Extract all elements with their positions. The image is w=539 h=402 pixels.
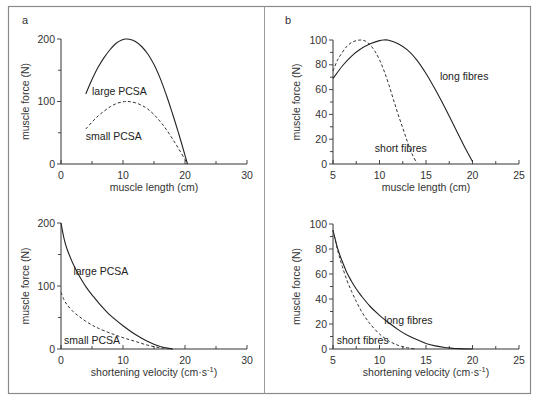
x-tick-label: 5 <box>330 354 336 366</box>
y-tick-label: 80 <box>315 58 327 70</box>
x-tick-label: 20 <box>179 354 191 366</box>
curve-short-fibres <box>333 230 417 349</box>
chart-panel-c: 01020300100200shortening velocity (cm·s-… <box>19 217 253 379</box>
figure: a b 01020300100200muscle length (cm)musc… <box>0 0 539 402</box>
y-tick-label: 0 <box>321 158 327 170</box>
label-small-pcsa: small PCSA <box>64 334 120 346</box>
y-tick-label: 100 <box>37 95 55 107</box>
y-tick-label: 100 <box>309 218 327 230</box>
chart-panel-d: 510152025020406080100shortening velocity… <box>290 218 525 379</box>
x-tick-label: 5 <box>330 169 336 181</box>
y-axis-label: muscle force (N) <box>290 63 302 140</box>
y-tick-label: 80 <box>315 243 327 255</box>
chart-panel-a: 01020300100200muscle length (cm)muscle f… <box>19 33 253 194</box>
y-axis-label: muscle force (N) <box>19 63 31 140</box>
label-short-fibres: short fibres <box>375 142 427 154</box>
y-tick-label: 200 <box>37 33 55 45</box>
x-tick-label: 25 <box>513 354 525 366</box>
x-tick-label: 20 <box>179 169 191 181</box>
x-tick-label: 0 <box>58 169 64 181</box>
panel-letter-b: b <box>285 14 291 26</box>
label-large-pcsa: large PCSA <box>73 265 128 277</box>
y-tick-label: 40 <box>315 293 327 305</box>
x-tick-label: 15 <box>420 169 432 181</box>
y-tick-label: 0 <box>321 343 327 355</box>
y-tick-label: 20 <box>315 318 327 330</box>
x-tick-label: 10 <box>374 354 386 366</box>
chart-panel-b: 510152025020406080100muscle length (cm)m… <box>290 34 525 194</box>
label-long-fibres: long fibres <box>440 70 488 82</box>
label-large-pcsa: large PCSA <box>92 85 147 97</box>
x-tick-label: 30 <box>241 169 253 181</box>
label-long-fibres: long fibres <box>384 314 432 326</box>
y-tick-label: 60 <box>315 268 327 280</box>
x-tick-label: 30 <box>241 354 253 366</box>
y-axis-label: muscle force (N) <box>290 248 302 325</box>
x-axis-label: shortening velocity (cm·s-1) <box>363 365 489 378</box>
x-axis-label: muscle length (cm) <box>382 181 471 193</box>
x-tick-label: 20 <box>467 169 479 181</box>
curve-long-fibres <box>333 230 473 349</box>
y-tick-label: 0 <box>49 158 55 170</box>
y-tick-label: 40 <box>315 108 327 120</box>
x-tick-label: 0 <box>58 354 64 366</box>
curve-large-pcsa <box>86 39 188 164</box>
y-tick-label: 60 <box>315 83 327 95</box>
curve-large-pcsa <box>61 223 173 349</box>
panel-letter-a: a <box>22 14 29 26</box>
y-tick-label: 20 <box>315 133 327 145</box>
y-tick-label: 0 <box>49 343 55 355</box>
x-tick-label: 10 <box>117 354 129 366</box>
x-axis-label: muscle length (cm) <box>110 181 199 193</box>
y-tick-label: 100 <box>309 34 327 46</box>
x-tick-label: 15 <box>420 354 432 366</box>
label-small-pcsa: small PCSA <box>86 130 142 142</box>
y-axis-label: muscle force (N) <box>19 247 31 324</box>
x-axis-label: shortening velocity (cm·s-1) <box>91 365 217 378</box>
x-tick-label: 25 <box>513 169 525 181</box>
label-short-fibres: short fibres <box>337 334 389 346</box>
x-tick-label: 10 <box>374 169 386 181</box>
y-tick-label: 100 <box>37 280 55 292</box>
y-tick-label: 200 <box>37 217 55 229</box>
x-tick-label: 10 <box>117 169 129 181</box>
x-tick-label: 20 <box>467 354 479 366</box>
